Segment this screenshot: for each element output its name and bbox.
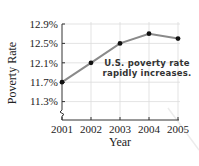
data-point-marker [176,36,181,41]
annotation-text: U.S. poverty raterapidly increases. [103,58,192,78]
data-point-marker [147,31,152,36]
x-tick-label: 2003 [109,123,132,135]
y-tick-label: 11.7% [30,76,58,88]
annotation-line: U.S. poverty rate [104,58,190,68]
y-axis-title: Poverty Rate [5,42,19,104]
data-point-marker [89,60,94,65]
axis-break-icon [60,110,64,116]
x-tick-label: 2002 [80,123,102,135]
y-tick-label: 12.9% [30,18,58,30]
y-tick-label: 11.3% [30,95,58,107]
x-axis-title: Year [109,135,131,149]
data-point-marker [118,41,123,46]
x-tick-label: 2004 [138,123,161,135]
data-point-marker [60,80,65,85]
line-chart: 11.3%11.7%12.1%12.5%12.9% 20012002200320… [0,0,199,166]
annotation-line: rapidly increases. [103,68,192,78]
x-tick-label: 2005 [167,123,190,135]
x-tick-label: 2001 [51,123,73,135]
y-axis-ticks: 11.3%11.7%12.1%12.5%12.9% [30,18,65,108]
y-tick-label: 12.1% [30,57,58,69]
y-tick-label: 12.5% [30,37,58,49]
